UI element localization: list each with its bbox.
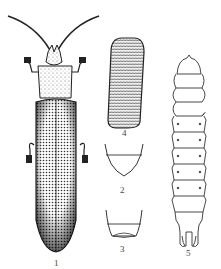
panel-label-4: 4 [122,128,127,138]
panel-label-3: 3 [120,244,125,254]
figure-canvas: 1 4 2 3 [0,0,221,269]
adult-beetle-drawing [8,16,99,252]
egg-drawing [108,38,144,128]
panel-label-5: 5 [186,248,191,258]
abdominal-tip-rounded-drawing [105,144,143,176]
panel-label-1: 1 [54,258,59,268]
larva-drawing [172,55,206,247]
abdominal-tip-truncate-drawing [106,210,142,238]
panel-label-2: 2 [120,185,125,195]
